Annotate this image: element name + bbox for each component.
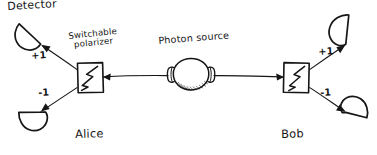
bob-plus-one-label: +1 (318, 46, 334, 57)
bob-label: Bob (281, 127, 304, 140)
photon-source (167, 58, 214, 90)
alice-minus-one-label: -1 (38, 87, 50, 98)
alice-detector-plus[interactable] (15, 24, 41, 50)
bob-detector-plus[interactable] (329, 15, 349, 46)
photon-beam-axis (103, 76, 283, 77)
diagram-canvas (0, 0, 377, 155)
alice-label: Alice (75, 127, 104, 140)
bell-test-diagram: Detector Switchable polarizer Photon sou… (0, 0, 377, 155)
bob-detector-minus[interactable] (341, 96, 368, 117)
bob-minus-one-label: -1 (320, 87, 332, 98)
alice-detector-minus[interactable] (19, 112, 48, 131)
alice-plus-one-label: +1 (31, 50, 47, 61)
bob-polarizer[interactable] (276, 63, 309, 93)
alice-polarizer[interactable] (78, 63, 111, 93)
